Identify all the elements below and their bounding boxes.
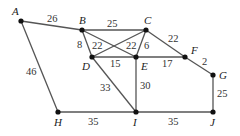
node-label-a: A [11, 5, 19, 17]
edge-weight-e-f: 17 [162, 58, 173, 69]
edge-weight-d-e: 15 [110, 58, 121, 69]
edge-f-g [185, 57, 213, 75]
node-label-h: H [53, 116, 63, 128]
node-g [210, 72, 215, 77]
edge-weight-e-i: 30 [140, 80, 151, 91]
node-d [89, 54, 94, 59]
node-e [133, 54, 138, 59]
node-c [143, 27, 148, 32]
node-f [182, 54, 187, 59]
node-label-c: C [144, 14, 152, 26]
edge-weight-d-i: 33 [100, 82, 111, 93]
node-j [210, 109, 215, 114]
node-label-b: B [79, 14, 86, 26]
edge-weight-i-j: 35 [168, 116, 179, 127]
edge-weight-b-d: 8 [77, 39, 82, 50]
node-b [79, 27, 84, 32]
weighted-graph-diagram: 26462582222615221723330353525 ABCDEFGHIJ [0, 0, 240, 136]
edge-weight-h-i: 35 [88, 116, 99, 127]
node-label-f: F [190, 44, 198, 56]
edge-weight-g-j: 25 [217, 88, 228, 99]
edge-weight-c-e: 6 [144, 40, 149, 51]
node-label-g: G [219, 69, 227, 81]
edge-c-f [146, 30, 185, 57]
node-h [55, 109, 60, 114]
edge-weight-a-h: 46 [26, 66, 37, 77]
node-label-e: E [140, 60, 148, 72]
edge-weight-f-g: 2 [202, 56, 207, 67]
node-i [133, 109, 138, 114]
node-label-d: D [81, 60, 90, 72]
node-a [18, 18, 23, 23]
edge-weight-b-e: 22 [92, 40, 103, 51]
node-label-j: J [210, 116, 216, 128]
edge-weight-c-f: 22 [168, 33, 179, 44]
edge-weight-a-b: 26 [47, 13, 58, 24]
edge-weight-b-c: 25 [107, 18, 118, 29]
edge-weight-c-d: 22 [126, 40, 137, 51]
node-label-i: I [132, 116, 138, 128]
